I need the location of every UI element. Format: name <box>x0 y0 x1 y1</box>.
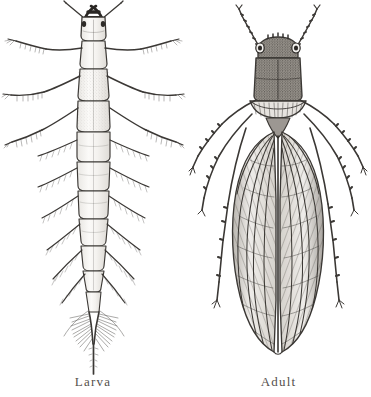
larva-terminal-filament <box>89 312 93 344</box>
adult-antenna-right <box>296 5 320 48</box>
insect-larva-illustration <box>0 0 186 397</box>
figure-adult <box>186 0 371 397</box>
larva-abdomen <box>77 132 110 292</box>
larva-eye-right <box>101 21 105 27</box>
illustration-plate: Larva Adult <box>0 0 371 397</box>
larva-leg-front-left <box>5 39 82 54</box>
larva-leg-hind-left <box>4 108 78 148</box>
larva-antenna-right <box>103 1 123 18</box>
caption-larva: Larva <box>0 374 186 390</box>
larva-tail-base <box>86 292 101 312</box>
larva-leg-front-right <box>105 39 182 54</box>
larva-eye-left <box>82 21 86 27</box>
adult-antenna-left <box>236 5 260 48</box>
larva-antenna-left <box>64 1 84 18</box>
caption-adult: Adult <box>186 374 371 390</box>
insect-adult-illustration <box>186 0 371 397</box>
figure-larva <box>0 0 186 397</box>
larva-leg-middle-left <box>2 76 80 101</box>
larva-leg-middle-right <box>107 76 185 101</box>
larva-leg-hind-right <box>110 108 184 148</box>
larva-mandibles <box>85 6 102 17</box>
